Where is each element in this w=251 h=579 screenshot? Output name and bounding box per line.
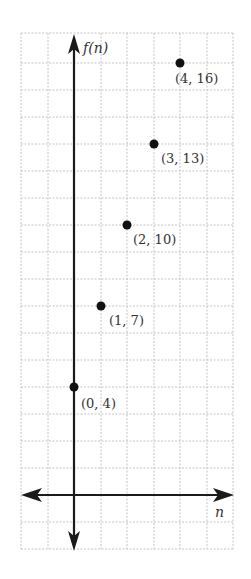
grid: [21, 33, 233, 549]
label-point-3-13: (3, 13): [161, 151, 204, 166]
label-point-1-7: (1, 7): [109, 313, 144, 328]
label-point-4-16: (4, 16): [175, 71, 218, 86]
x-axis-label: n: [215, 504, 224, 520]
point-1-7: [97, 302, 106, 311]
y-axis: [68, 34, 80, 551]
point-2-10: [123, 221, 132, 230]
function-graph: f(n) n (0, 4) (1, 7) (2, 10) (3, 13) (4,…: [0, 0, 251, 579]
label-point-0-4: (0, 4): [81, 396, 116, 411]
y-axis-label: f(n): [82, 40, 108, 56]
label-point-2-10: (2, 10): [133, 232, 176, 247]
point-3-13: [150, 140, 159, 149]
point-4-16: [176, 59, 185, 68]
point-0-4: [70, 383, 79, 392]
